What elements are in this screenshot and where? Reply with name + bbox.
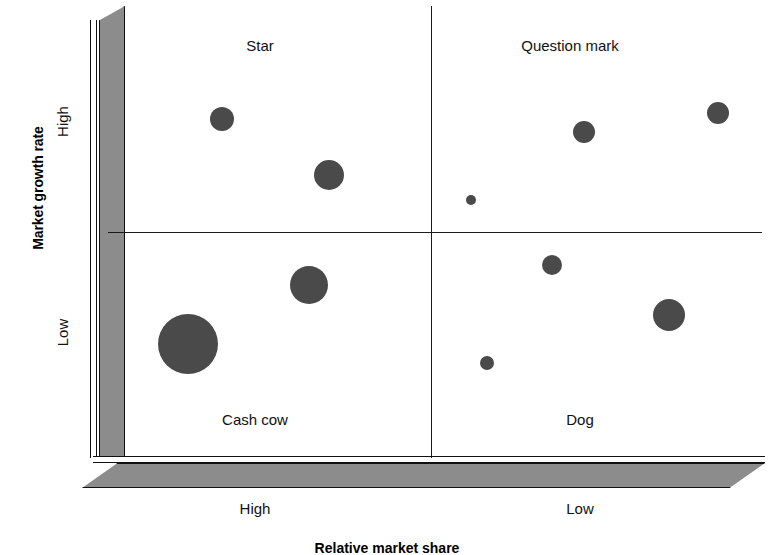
- x-axis-tick-high: High: [205, 500, 305, 517]
- y-axis-tick-low: Low: [54, 288, 71, 378]
- x-axis-bar: [82, 455, 766, 489]
- x-axis-title: Relative market share: [237, 540, 537, 555]
- x-axis-tick-low: Low: [530, 500, 630, 517]
- bubble-star-1: [314, 160, 344, 190]
- quadrant-label-cash-cow: Cash cow: [200, 411, 310, 428]
- bubble-question-3: [707, 102, 729, 124]
- quadrant-label-star: Star: [210, 37, 310, 54]
- bubble-dog-9: [480, 356, 494, 370]
- quadrant-label-dog: Dog: [540, 411, 620, 428]
- quadrant-label-question-mark: Question mark: [490, 37, 650, 54]
- x-axis-bar-face: [82, 463, 765, 488]
- y-axis-title: Market growth rate: [30, 88, 46, 288]
- x-axis-bar-edge: [93, 456, 765, 463]
- y-axis-tick-high: High: [54, 77, 71, 167]
- bubble-cashcow-5: [290, 266, 328, 304]
- bubble-dog-8: [653, 299, 685, 331]
- bubble-dog-7: [542, 255, 562, 275]
- y-axis-bar-edge: [90, 20, 97, 458]
- bcg-matrix-diagram: Market growth rate High Low Star Questio…: [0, 0, 774, 555]
- quadrant-divider-horizontal: [108, 232, 762, 233]
- bubble-cashcow-6: [158, 314, 218, 374]
- bubble-question-2: [573, 121, 595, 143]
- bubble-question-4: [466, 195, 476, 205]
- bubble-star-0: [210, 107, 234, 131]
